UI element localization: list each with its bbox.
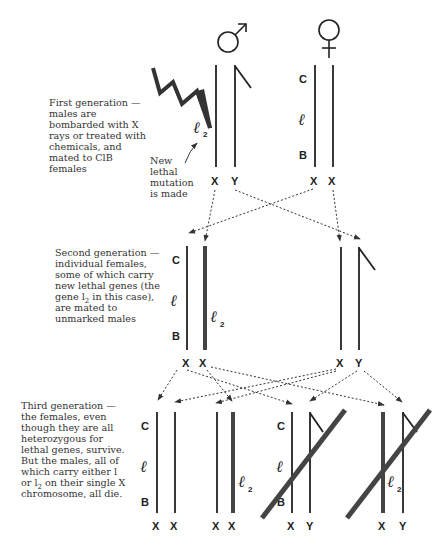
- gen3-f2-marker-l2: ℓ: [238, 472, 245, 491]
- gen2-male-y-hook: [359, 248, 375, 270]
- gen1-label-x-male: X: [211, 175, 219, 187]
- gen2-marker-l: ℓ: [170, 291, 177, 310]
- gen3-label-3: X: [212, 520, 220, 532]
- gen3-male2-death-slash: [347, 410, 430, 518]
- gen3-m1-marker-l: ℓ: [276, 457, 283, 476]
- male-symbol-icon: [218, 24, 246, 52]
- gen1-label-x-female1: X: [310, 175, 318, 187]
- lightning-bolt-icon: [153, 68, 212, 128]
- gen3-label-5: X: [287, 520, 295, 532]
- gen1-female-chromosomes: [315, 65, 333, 167]
- gen3-female1-chromosomes: [157, 412, 175, 513]
- gen3-f1-marker-l: ℓ: [140, 457, 147, 476]
- gen1-marker-l: ℓ: [298, 110, 305, 129]
- gen2-female-chromosomes: [187, 246, 205, 350]
- gen3-f1-marker-b: B: [141, 496, 149, 508]
- gen1-marker-c: C: [299, 73, 307, 85]
- gen1-male-y-hook: [235, 66, 251, 88]
- gen2-label-y-male: Y: [355, 357, 363, 369]
- gen2-marker-l2-subscript: 2: [220, 320, 225, 329]
- gen1-male-chromosomes: [216, 65, 251, 167]
- gen1-label-y-male: Y: [231, 175, 239, 187]
- gen3-label-6: Y: [306, 520, 314, 532]
- female-symbol-icon: [319, 20, 339, 58]
- gen3-m2-marker-l2-subscript: 2: [397, 485, 402, 494]
- gen3-label-4: X: [228, 520, 236, 532]
- gen2-label-x2: X: [199, 357, 207, 369]
- gen3-m1-marker-c: C: [277, 420, 285, 432]
- gen1-l2-subscript: 2: [203, 130, 208, 139]
- gen1-marker-b: B: [299, 149, 307, 161]
- gen3-label-8: Y: [399, 520, 407, 532]
- gen3-label-2: X: [170, 520, 178, 532]
- gen2-marker-c: C: [172, 254, 180, 266]
- gen1-l2-marker: ℓ: [193, 118, 200, 137]
- gen1-to-gen2-arrows: [189, 189, 360, 241]
- gen1-label-x-female2: X: [328, 175, 336, 187]
- gen2-to-gen3-arrows: [158, 367, 402, 405]
- gen3-f1-marker-c: C: [141, 420, 149, 432]
- gen2-marker-b: B: [172, 330, 180, 342]
- gen3-male1-death-slash: [262, 410, 345, 518]
- crossing-diagram: ℓ 2 C ℓ B X Y X X C ℓ B ℓ 2 X X X Y: [0, 0, 446, 549]
- gen3-label-7: X: [378, 520, 386, 532]
- gen3-label-1: X: [152, 520, 160, 532]
- gen2-label-x-male: X: [336, 357, 344, 369]
- gen3-female2-chromosomes: [217, 412, 233, 513]
- gen3-f2-marker-l2-subscript: 2: [248, 485, 253, 494]
- mutation-pointer-arrow: [185, 143, 197, 163]
- gen2-label-x1: X: [182, 357, 190, 369]
- gen3-m2-marker-l2: ℓ: [387, 472, 394, 491]
- gen2-male-chromosomes: [341, 247, 375, 350]
- gen2-marker-l2: ℓ: [210, 307, 217, 326]
